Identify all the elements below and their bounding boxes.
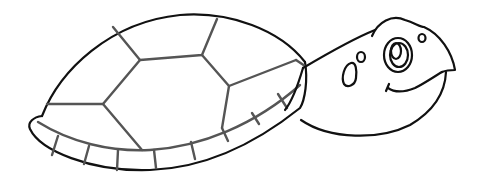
turtle-head	[285, 18, 455, 136]
turtle-shell	[29, 14, 306, 170]
turtle-illustration	[0, 0, 482, 183]
